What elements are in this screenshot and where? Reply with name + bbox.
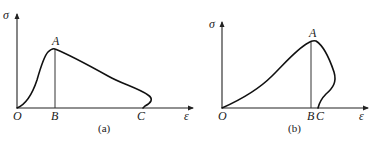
- figure-a: σ A O B C ε (a): [3, 8, 193, 135]
- point-a-label-b: A: [308, 26, 317, 40]
- figure-b: σ A O B C ε (b): [209, 17, 368, 135]
- point-o-label-a: O: [13, 109, 22, 123]
- epsilon-label-a: ε: [184, 109, 189, 123]
- point-c-label-b: C: [316, 109, 325, 123]
- caption-a: (a): [98, 122, 111, 135]
- sigma-label-a: σ: [3, 8, 10, 22]
- point-a-label-a: A: [51, 34, 60, 48]
- curve-a: [17, 49, 151, 108]
- stress-strain-diagrams: σ A O B C ε (a) σ A O B C ε (b): [0, 0, 370, 144]
- point-b-label-b: B: [307, 109, 315, 123]
- point-c-label-a: C: [137, 109, 146, 123]
- caption-b: (b): [288, 122, 301, 135]
- point-b-label-a: B: [51, 109, 59, 123]
- point-o-label-b: O: [218, 109, 227, 123]
- curve-b: [222, 41, 335, 108]
- sigma-label-b: σ: [209, 17, 216, 31]
- epsilon-label-b: ε: [359, 109, 364, 123]
